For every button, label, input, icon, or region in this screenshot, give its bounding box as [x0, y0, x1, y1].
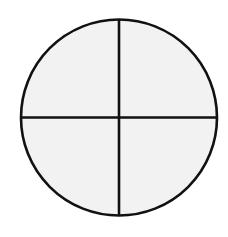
- diagram-canvas: [0, 0, 228, 237]
- quarter-top-left: [21, 20, 119, 118]
- quarter-top-right: [119, 20, 217, 118]
- quarter-bottom-left: [21, 118, 119, 216]
- quartered-circle-figure: [0, 0, 228, 237]
- quarter-bottom-right: [119, 118, 217, 216]
